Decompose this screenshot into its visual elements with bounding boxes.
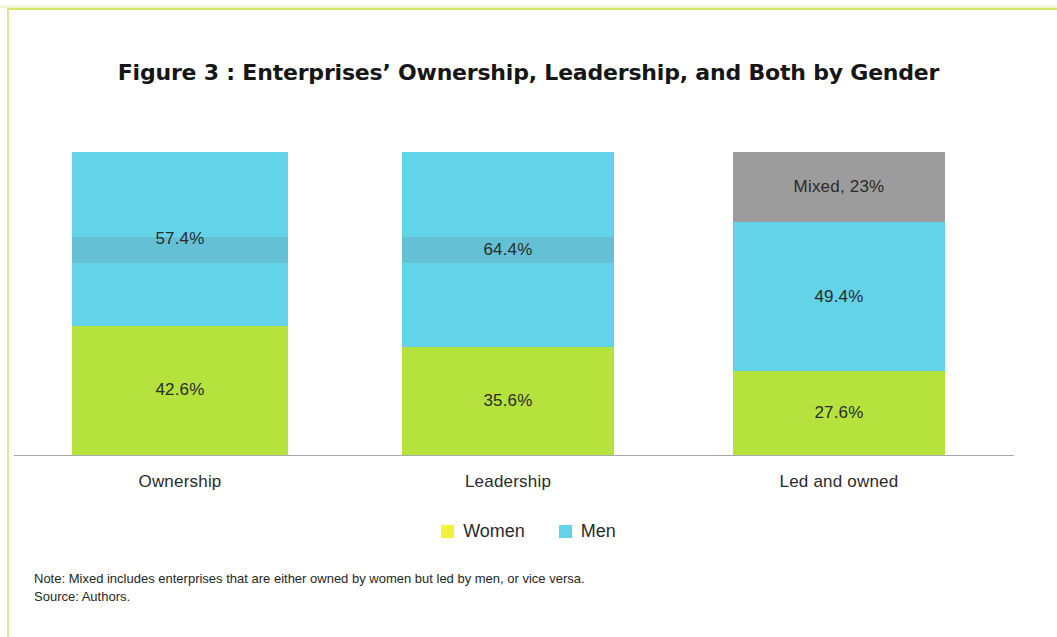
bar-ownership[interactable]: 57.4% 42.6% [72, 152, 288, 455]
bar-segment-label: 27.6% [814, 403, 863, 423]
bar-segment-mixed[interactable]: Mixed, 23% [733, 152, 945, 222]
bar-segment-men[interactable]: 49.4% [733, 222, 945, 372]
footnote-source: Source: Authors. [34, 588, 585, 606]
bar-segment-label: 49.4% [814, 287, 863, 307]
footnote-note: Note: Mixed includes enterprises that ar… [34, 570, 585, 588]
bar-segment-women[interactable]: 42.6% [72, 326, 288, 455]
bar-segment-label: 64.4% [483, 240, 532, 260]
bar-segment-men[interactable]: 57.4% [72, 152, 288, 326]
legend-label-men: Men [581, 521, 616, 542]
bar-segment-label: 35.6% [483, 391, 532, 411]
bar-stack: 64.4% 35.6% [402, 152, 614, 455]
bar-segment-women[interactable]: 27.6% [733, 371, 945, 455]
chart-baseline-axis [14, 455, 1014, 456]
category-label-led-and-owned: Led and owned [733, 472, 945, 492]
bar-leadership[interactable]: 64.4% 35.6% [402, 152, 614, 455]
bar-segment-men[interactable]: 64.4% [402, 152, 614, 347]
bar-led-and-owned[interactable]: Mixed, 23% 49.4% 27.6% [733, 152, 945, 455]
bar-stack: 57.4% 42.6% [72, 152, 288, 455]
figure-page: Figure 3 : Enterprises’ Ownership, Leade… [0, 0, 1057, 637]
legend-item-women[interactable]: Women [441, 521, 525, 542]
legend-item-men[interactable]: Men [559, 521, 616, 542]
chart-legend: Women Men [0, 521, 1057, 542]
bar-segment-label: 42.6% [155, 380, 204, 400]
legend-swatch-men-icon [559, 525, 572, 538]
bar-segment-women[interactable]: 35.6% [402, 347, 614, 455]
legend-swatch-women-icon [441, 525, 454, 538]
figure-footnote: Note: Mixed includes enterprises that ar… [34, 570, 585, 606]
bar-stack: Mixed, 23% 49.4% 27.6% [733, 152, 945, 455]
legend-label-women: Women [463, 521, 525, 542]
category-label-ownership: Ownership [72, 472, 288, 492]
category-label-leadership: Leadership [402, 472, 614, 492]
bar-segment-label: Mixed, 23% [794, 177, 885, 197]
bar-segment-label: 57.4% [155, 229, 204, 249]
